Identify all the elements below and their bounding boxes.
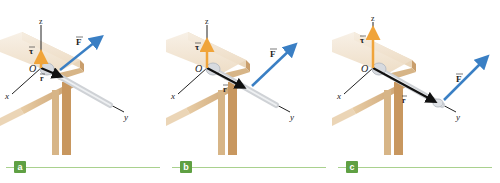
- origin-label: O: [361, 63, 368, 74]
- x-axis: [12, 68, 41, 94]
- r-label: r: [402, 96, 406, 105]
- force-vector-F: [444, 58, 486, 100]
- panel-c: z x y O τ r F c: [332, 0, 498, 183]
- x-axis: [178, 68, 207, 94]
- z-label: z: [39, 17, 43, 26]
- panel-a: z x y O τ r F a: [0, 0, 166, 183]
- panel-b: z x y O τ r F b: [166, 0, 332, 183]
- panel-c-illustration: z x y O τ r F: [332, 0, 498, 160]
- panel-badge-b: b: [180, 161, 192, 173]
- panel-b-illustration: z x y O τ r F: [166, 0, 332, 160]
- x-label: x: [336, 91, 341, 101]
- F-label: F: [456, 74, 462, 84]
- x-label: x: [4, 91, 9, 101]
- y-label: y: [455, 112, 460, 122]
- origin-label: O: [29, 63, 36, 74]
- panel-b-caption: b: [166, 160, 332, 174]
- panel-badge-c: c: [346, 161, 358, 173]
- origin-label: O: [195, 63, 202, 74]
- panel-badge-a: a: [14, 161, 26, 173]
- r-label: r: [223, 85, 227, 94]
- x-label: x: [170, 91, 175, 101]
- panel-c-caption: c: [332, 160, 498, 174]
- caption-rule: [6, 167, 160, 168]
- caption-rule: [172, 167, 326, 168]
- x-axis: [344, 68, 373, 94]
- y-label: y: [289, 112, 294, 122]
- y-label: y: [123, 112, 128, 122]
- z-label: z: [371, 14, 375, 23]
- F-label: F: [270, 49, 276, 59]
- caption-rule: [338, 167, 492, 168]
- z-label: z: [205, 17, 209, 26]
- F-label: F: [76, 37, 82, 47]
- r-label: r: [40, 74, 44, 83]
- torque-diagram-figure: z x y O τ r F a: [0, 0, 500, 183]
- panel-a-caption: a: [0, 160, 166, 174]
- panel-a-illustration: z x y O τ r F: [0, 0, 166, 160]
